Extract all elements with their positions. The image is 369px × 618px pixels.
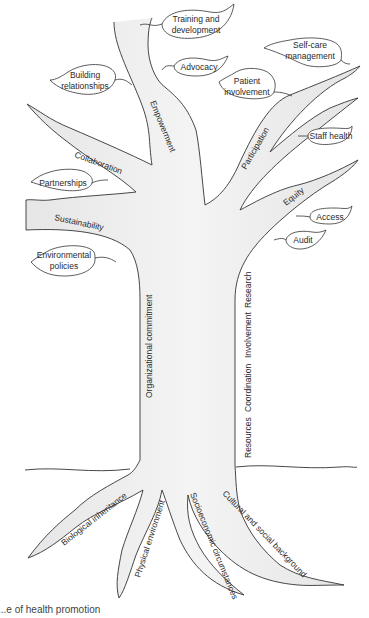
svg-text:development: development	[172, 25, 221, 35]
leaf-training-and-development: Training and development	[140, 4, 234, 38]
svg-text:Environmental: Environmental	[37, 250, 91, 260]
trunk-label-coordination: Coordination	[243, 364, 253, 412]
trunk-label-organizational-commitment: Organizational commitment	[144, 294, 154, 398]
svg-text:Self-care: Self-care	[293, 40, 327, 50]
leaf-self-care-management: Self-care management	[264, 38, 350, 67]
svg-text:Partnerships: Partnerships	[39, 178, 87, 188]
leaf-advocacy: Advocacy	[162, 56, 228, 76]
svg-text:Audit: Audit	[293, 235, 313, 245]
leaf-partnerships: Partnerships	[31, 169, 108, 191]
svg-text:involvement: involvement	[224, 87, 270, 97]
svg-text:Access: Access	[316, 212, 343, 222]
leaf-environmental-policies: Environmental policies	[31, 246, 116, 276]
leaf-audit: Audit	[274, 230, 326, 249]
svg-text:Building: Building	[70, 70, 101, 80]
trunk-label-involvement: Involvement	[243, 312, 253, 358]
tree-body	[26, 18, 360, 598]
svg-text:relationships: relationships	[61, 81, 109, 91]
leaf-access: Access	[296, 206, 352, 224]
svg-text:management: management	[285, 51, 335, 61]
trunk-label-resources: Resources	[243, 417, 253, 458]
leaf-patient-involvement: Patient involvement	[219, 68, 292, 98]
svg-text:Staff health: Staff health	[310, 131, 353, 141]
svg-text:Advocacy: Advocacy	[181, 62, 219, 72]
health-promotion-tree: Empowerment Participation Equity Collabo…	[0, 0, 369, 618]
svg-text:Training and: Training and	[173, 14, 220, 24]
svg-text:policies: policies	[50, 261, 78, 271]
leaf-building-relationships: Building relationships	[50, 65, 132, 95]
svg-text:Patient: Patient	[234, 76, 261, 86]
trunk-label-research: Research	[243, 271, 253, 308]
figure-caption: ...e of health promotion	[0, 604, 100, 615]
